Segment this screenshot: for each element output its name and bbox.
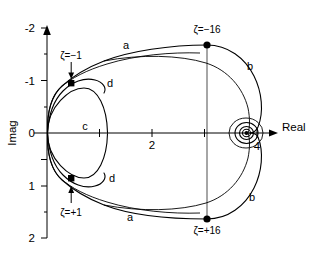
label-curve-b-upper: b — [247, 60, 253, 72]
ytick-label-neg1: -1 — [25, 75, 35, 87]
label-curve-d-upper: d — [107, 77, 113, 89]
label-curve-c: c — [82, 120, 88, 132]
label-zeta-plus-16: ζ=+16 — [193, 225, 221, 237]
marker-zeta-minus-16 — [203, 41, 210, 48]
real-axis-label: Real — [282, 121, 306, 133]
xtick-label-2: 2 — [149, 139, 155, 151]
ytick-label-neg2: -2 — [25, 22, 35, 34]
ytick-label-pos2: 2 — [29, 232, 35, 244]
label-curve-a-lower: a — [127, 211, 134, 223]
marker-zeta-plus-16 — [203, 215, 210, 222]
ytick-label-pos1: 1 — [29, 180, 35, 192]
label-zeta-plus-1: ζ=+1 — [60, 207, 82, 219]
label-curve-d-lower: d — [109, 172, 115, 184]
label-curve-a-upper: a — [123, 39, 130, 51]
label-curve-b-lower: b — [249, 191, 255, 203]
label-zeta-minus-1: ζ=−1 — [60, 50, 82, 62]
imag-axis-label: Imag — [6, 120, 18, 146]
ytick-label-zero: 0 — [29, 127, 35, 139]
spiral-center-point — [245, 131, 249, 135]
label-zeta-minus-16: ζ=−16 — [193, 24, 221, 36]
root-locus-plot: -2 -1 0 1 2 2 4 Real Imag — [0, 0, 314, 264]
marker-zeta-minus-1 — [68, 80, 74, 86]
marker-zeta-plus-1 — [68, 175, 74, 181]
